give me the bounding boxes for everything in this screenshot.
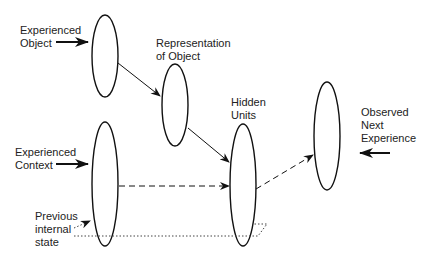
experienced-context-node <box>92 122 118 246</box>
object-to-representation-arrow <box>118 63 160 96</box>
representation-node <box>162 64 188 146</box>
observed-next-node <box>314 82 340 190</box>
label-hidden-units: Hidden Units <box>231 96 266 122</box>
representation-to-hidden-arrow <box>188 128 229 162</box>
label-experienced-context: Experienced Context <box>15 146 76 172</box>
label-previous-state: Previous internal state <box>35 210 78 249</box>
label-observed-next: Observed Next Experience <box>361 106 416 145</box>
hidden-to-observed-arrow <box>256 155 313 189</box>
hidden-units-node <box>230 124 256 246</box>
experienced-object-node <box>92 15 118 97</box>
previous-state-plane <box>74 224 267 236</box>
label-experienced-object: Experienced Object <box>20 24 81 50</box>
label-representation: Representation of Object <box>156 37 231 63</box>
